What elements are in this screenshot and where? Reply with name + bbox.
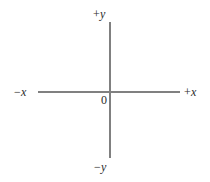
positive-y-axis-label: +y bbox=[93, 8, 106, 20]
negative-y-variable: y bbox=[101, 160, 107, 174]
positive-x-axis-label: +x bbox=[184, 86, 197, 98]
negative-y-axis-label: −y bbox=[94, 161, 107, 173]
axes-graphic bbox=[0, 0, 210, 182]
negative-x-axis-label: −x bbox=[14, 86, 27, 98]
positive-y-variable: y bbox=[100, 7, 106, 21]
axes-diagram: +y −y −x +x 0 bbox=[0, 0, 210, 182]
negative-x-variable: x bbox=[21, 85, 27, 99]
positive-x-variable: x bbox=[191, 85, 197, 99]
origin-label: 0 bbox=[101, 94, 107, 106]
